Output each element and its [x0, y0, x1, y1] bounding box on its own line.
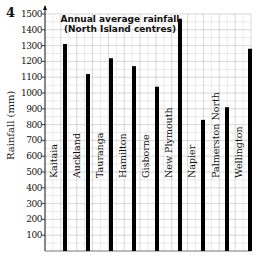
category-label: Palmerston North — [210, 92, 221, 178]
category-label: Kaitaia — [48, 144, 59, 178]
category-label: Hamilton — [117, 133, 128, 178]
category-label: New Plymouth — [163, 107, 174, 178]
bar-new-plymouth — [178, 19, 182, 251]
chart-plot — [0, 0, 262, 264]
category-label: Gisborne — [140, 134, 151, 178]
category-label: Auckland — [71, 133, 82, 178]
bar-gisborne — [155, 87, 159, 251]
chart-title-line-1: Annual average rainfall — [60, 14, 180, 24]
bar-napier — [201, 120, 205, 251]
chart-title-line-2: (North Island centres) — [60, 24, 180, 34]
bar-wellington — [248, 49, 252, 251]
bar-tauranga — [109, 58, 113, 251]
chart-title: Annual average rainfall (North Island ce… — [60, 14, 180, 34]
bar-palmerston-north — [225, 107, 229, 251]
bar-kaitaia — [63, 44, 67, 251]
category-label: Wellington — [233, 126, 244, 178]
category-label: Tauranga — [94, 133, 105, 178]
bar-auckland — [86, 74, 90, 251]
bar-hamilton — [132, 66, 136, 251]
category-label: Napier — [186, 145, 197, 178]
